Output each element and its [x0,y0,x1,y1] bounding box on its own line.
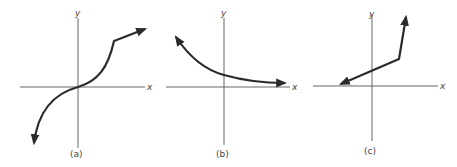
curve-a [34,29,145,143]
x-axis-label: x [291,82,298,92]
panel-a: y x (a) [20,8,153,159]
figure: y x (a) y x (b) y x (c) [0,0,457,167]
panel-b: y x (b) [166,8,298,159]
x-axis-label: x [146,82,153,92]
caption-b: (b) [216,149,229,159]
caption-c: (c) [364,146,376,156]
curve-b [176,37,285,83]
y-axis-label: y [220,8,227,18]
x-axis-label: x [439,81,446,91]
y-axis-label: y [368,9,375,19]
y-axis-label: y [74,8,81,18]
caption-a: (a) [70,149,83,159]
curve-c [341,17,406,84]
panel-c: y x (c) [313,9,446,156]
